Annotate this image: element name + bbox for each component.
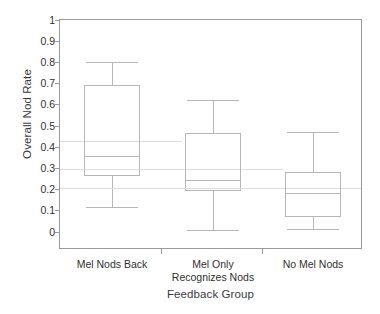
x-tick-label: No Mel Nods: [243, 258, 380, 271]
y-tick-label: 1: [0, 15, 55, 26]
y-tick-label: 0.6: [0, 99, 55, 110]
y-tick-mark: [55, 168, 59, 169]
whisker-stem-lower: [313, 217, 314, 230]
y-tick-label: 0.1: [0, 205, 55, 216]
whisker-stem-upper: [213, 100, 214, 133]
x-axis-title: Feedback Group: [59, 288, 362, 300]
whisker-stem-lower: [112, 176, 113, 207]
box-plot-chart: Overall Nod Rate 10.90.80.70.60.50.40.30…: [0, 0, 380, 314]
y-tick-label: 0.8: [0, 57, 55, 68]
x-tick-mark: [161, 249, 162, 254]
y-tick-label: 0.2: [0, 184, 55, 195]
x-tick-label: Recognizes Nods: [143, 271, 283, 284]
whisker-stem-lower: [213, 191, 214, 230]
box-iqr: [185, 133, 241, 191]
y-tick-mark: [55, 20, 59, 21]
y-tick-label: 0.3: [0, 163, 55, 174]
whisker-stem-upper: [313, 132, 314, 172]
y-tick-mark: [55, 104, 59, 105]
y-tick-mark: [55, 126, 59, 127]
median-line: [84, 156, 140, 157]
y-tick-mark: [55, 147, 59, 148]
median-line: [185, 180, 241, 181]
y-tick-label: 0.5: [0, 121, 55, 132]
y-tick-mark: [55, 41, 59, 42]
y-tick-label: 0.9: [0, 36, 55, 47]
y-tick-mark: [55, 62, 59, 63]
whisker-stem-upper: [112, 62, 113, 85]
box-iqr: [84, 85, 140, 176]
y-tick-label: 0.7: [0, 78, 55, 89]
y-tick-mark: [55, 189, 59, 190]
median-line: [285, 193, 341, 194]
whisker-cap-lower: [86, 207, 138, 208]
y-tick-mark: [55, 210, 59, 211]
y-tick-label: 0.4: [0, 142, 55, 153]
y-tick-label: 0: [0, 227, 55, 238]
whisker-cap-lower: [287, 229, 339, 230]
y-tick-mark: [55, 232, 59, 233]
y-tick-mark: [55, 83, 59, 84]
box-iqr: [285, 172, 341, 217]
mean-reference-line: [60, 169, 283, 170]
whisker-cap-lower: [187, 230, 239, 231]
x-tick-mark: [262, 249, 263, 254]
